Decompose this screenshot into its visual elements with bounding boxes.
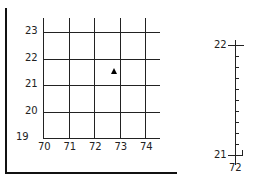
grid-hline — [43, 112, 160, 113]
scale-minor-tick — [235, 111, 239, 112]
x-tick-label: 73 — [115, 142, 128, 152]
triangle-point-marker — [111, 68, 117, 74]
x-tick-label: 72 — [89, 142, 102, 152]
scale-minor-tick — [235, 122, 239, 123]
x-tick-label: 71 — [64, 142, 77, 152]
scale-minor-tick — [235, 89, 239, 90]
grid-vline — [69, 18, 70, 138]
scale-minor-tick — [235, 100, 239, 101]
frame-bottom-border — [5, 172, 177, 174]
y-tick-label: 21 — [25, 79, 38, 89]
grid-vline — [145, 18, 146, 138]
scale-minor-tick — [235, 67, 239, 68]
scale-bottom-tick — [228, 155, 242, 156]
scale-top-tick — [228, 45, 244, 46]
x-tick-label: 70 — [38, 142, 51, 152]
y-tick-label: 22 — [25, 53, 38, 63]
grid-hline — [43, 85, 160, 86]
grid-vline — [120, 18, 121, 138]
scale-minor-tick — [235, 56, 239, 57]
scale-top-label: 22 — [214, 40, 227, 50]
grid-hline — [43, 59, 160, 60]
scale-axis — [235, 40, 236, 165]
y-tick-label: 23 — [25, 26, 38, 36]
grid-vline — [43, 18, 44, 138]
scale-under-label: 72 — [229, 163, 242, 173]
scale-minor-tick — [235, 144, 239, 145]
x-tick-label: 74 — [140, 142, 153, 152]
scale-minor-tick — [235, 78, 239, 79]
grid-hline — [43, 138, 160, 139]
scale-bottom-end — [242, 150, 243, 156]
y-tick-label: 20 — [25, 106, 38, 116]
scale-minor-tick — [235, 133, 239, 134]
grid-vline — [94, 18, 95, 138]
grid-hline — [43, 32, 160, 33]
frame-left-border — [5, 8, 7, 173]
y-tick-label: 19 — [16, 132, 29, 142]
scale-bottom-label: 21 — [214, 150, 227, 160]
